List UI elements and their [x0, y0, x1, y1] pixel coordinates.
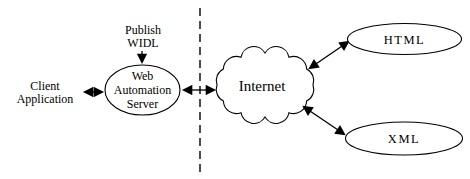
web-automation-server-label-line2: Automation [114, 83, 171, 97]
xml-label: XML [388, 132, 420, 146]
arrow-internet-xml [304, 107, 344, 134]
publish-widl-label-line2: WIDL [127, 36, 158, 50]
web-automation-server-label-line1: Web [132, 69, 154, 83]
web-automation-server-label-line3: Server [127, 97, 158, 111]
publish-widl-label-line1: Publish [125, 23, 161, 37]
arrow-internet-html [310, 42, 348, 68]
html-label: HTML [384, 33, 425, 47]
client-application-label-line2: Application [17, 92, 74, 106]
internet-label: Internet [239, 78, 286, 94]
client-application-label-line1: Client [30, 79, 60, 93]
architecture-diagram: Publish WIDL Client Application Web Auto… [0, 0, 470, 179]
diagram-canvas: Publish WIDL Client Application Web Auto… [0, 0, 470, 179]
